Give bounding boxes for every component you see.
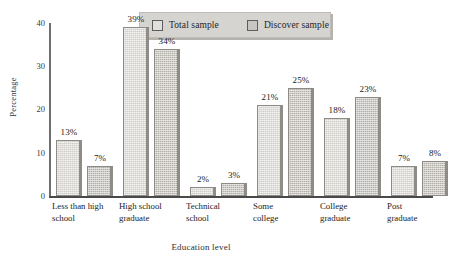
category-label: High schoolgraduate [119, 201, 162, 224]
bar-value-label: 25% [283, 75, 319, 85]
bar-discover-sample [355, 97, 381, 196]
bar-group-item: 3% [221, 23, 247, 196]
bar-group-item: 7% [87, 23, 113, 196]
bar-value-label: 13% [51, 127, 87, 137]
y-tick-0: 0 [25, 191, 45, 201]
bar-total-sample [123, 27, 149, 196]
bar-group-item: 13% [56, 23, 82, 196]
category-label: Somecollege [253, 201, 278, 224]
bar-value-label: 3% [216, 170, 252, 180]
bar-group-item: 25% [288, 23, 314, 196]
bar-group-item: 7% [391, 23, 417, 196]
category-label-line: College [320, 201, 350, 213]
y-axis-title: Percentage [8, 67, 18, 127]
bar-value-label: 21% [252, 92, 288, 102]
bar-value-label: 39% [118, 14, 154, 24]
x-axis-title: Education level [0, 242, 444, 252]
bar-group-item: 21% [257, 23, 283, 196]
category-label-line: college [253, 213, 278, 225]
y-tick-40: 40 [25, 18, 45, 28]
y-axis-ticks: 40 30 20 10 0 [23, 0, 45, 268]
category-label-line: High school [119, 201, 162, 213]
bar-discover-sample [221, 183, 247, 196]
category-label: Technicalschool [186, 201, 220, 224]
category-label-line: graduate [320, 213, 350, 225]
category-label-line: graduate [119, 213, 162, 225]
bar-discover-sample [288, 88, 314, 196]
category-label-line: Technical [186, 201, 220, 213]
y-tick-10: 10 [25, 148, 45, 158]
category-label: Less than highschool [52, 201, 103, 224]
category-label-line: Post [387, 201, 417, 213]
bar-group-item: 23% [355, 23, 381, 196]
bar-discover-sample [154, 49, 180, 196]
bar-value-label: 34% [149, 36, 185, 46]
bar-total-sample [257, 105, 283, 196]
bar-group-item: 39% [123, 23, 149, 196]
bar-group-item: 18% [324, 23, 350, 196]
x-axis-category-labels: Less than highschoolHigh schoolgraduateT… [51, 201, 433, 237]
bar-value-label: 18% [319, 105, 355, 115]
bar-discover-sample [422, 161, 448, 196]
category-label-line: Some [253, 201, 278, 213]
bar-group-item: 34% [154, 23, 180, 196]
bar-value-label: 7% [82, 153, 118, 163]
bar-total-sample [324, 118, 350, 196]
bar-discover-sample [87, 166, 113, 196]
bar-total-sample [56, 140, 82, 196]
category-label-line: Less than high [52, 201, 103, 213]
bar-total-sample [391, 166, 417, 196]
plot-area: 13%7%39%34%2%3%21%25%18%23%7%8% [51, 23, 433, 196]
bar-group-item: 2% [190, 23, 216, 196]
bar-value-label: 8% [417, 148, 452, 158]
y-tick-20: 20 [25, 104, 45, 114]
category-label: Collegegraduate [320, 201, 350, 224]
bar-total-sample [190, 187, 216, 196]
category-label-line: school [186, 213, 220, 225]
category-label: Postgraduate [387, 201, 417, 224]
category-label-line: graduate [387, 213, 417, 225]
y-tick-30: 30 [25, 61, 45, 71]
bar-group-item: 8% [422, 23, 448, 196]
x-axis-line [49, 196, 433, 198]
bar-value-label: 23% [350, 84, 386, 94]
category-label-line: school [52, 213, 103, 225]
